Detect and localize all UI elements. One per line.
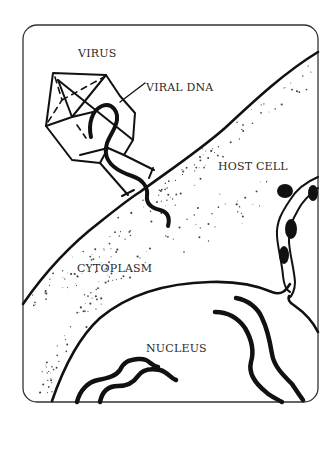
stipple-dot <box>62 277 63 278</box>
stipple-dot <box>116 249 118 251</box>
stipple-dot <box>199 159 201 161</box>
stipple-dot <box>89 256 91 258</box>
stipple-dot <box>146 251 147 252</box>
stipple-dot <box>302 75 304 77</box>
stipple-dot <box>84 310 86 312</box>
stipple-dot <box>109 243 111 245</box>
stipple-dot <box>266 181 267 182</box>
stipple-dot <box>175 194 177 196</box>
stipple-dot <box>175 180 176 181</box>
stipple-dot <box>96 298 98 300</box>
stipple-dot <box>310 71 311 72</box>
stipple-dot <box>182 170 184 172</box>
stipple-dot <box>172 198 173 199</box>
stipple-dot <box>92 297 93 298</box>
stipple-dot <box>130 235 131 236</box>
stipple-dot <box>180 192 182 194</box>
stipple-dot <box>74 273 76 275</box>
stipple-dot <box>92 258 94 260</box>
stipple-dot <box>200 227 201 228</box>
stipple-dot <box>175 204 176 205</box>
stipple-dot <box>80 306 82 308</box>
stipple-dot <box>67 272 68 273</box>
stipple-dot <box>241 129 242 130</box>
stipple-dot <box>199 156 201 158</box>
stipple-dot <box>284 87 285 88</box>
stipple-dot <box>46 361 48 363</box>
stipple-dot <box>237 201 238 202</box>
stipple-dot <box>291 89 293 91</box>
stipple-dot <box>34 305 35 306</box>
stipple-dot <box>111 256 112 257</box>
stipple-dot <box>35 304 36 305</box>
stipple-dot <box>197 207 199 209</box>
stipple-dot <box>308 65 309 66</box>
stipple-dot <box>195 224 196 225</box>
stipple-dot <box>260 182 261 183</box>
stipple-dot <box>194 164 195 165</box>
ribosome-blob <box>285 219 297 239</box>
stipple-dot <box>57 345 58 346</box>
stipple-dot <box>165 182 166 183</box>
stipple-dot <box>244 197 246 199</box>
stipple-dot <box>62 287 63 288</box>
stipple-dot <box>218 146 219 147</box>
stipple-dot <box>205 151 206 152</box>
stipple-dot <box>84 294 85 295</box>
stipple-dot <box>117 217 119 219</box>
stipple-dot <box>48 371 49 372</box>
ribosome-blob <box>277 184 293 198</box>
stipple-dot <box>95 308 96 309</box>
stipple-dot <box>218 206 220 208</box>
stipple-dot <box>195 167 197 169</box>
stipple-dot <box>263 103 264 104</box>
stipple-dot <box>56 367 58 369</box>
stipple-dot <box>200 178 202 180</box>
stipple-dot <box>150 220 152 222</box>
stipple-dot <box>296 90 298 92</box>
stipple-dot <box>95 295 97 297</box>
stipple-dot <box>285 87 286 88</box>
stipple-dot <box>118 235 119 236</box>
stipple-dot <box>251 109 252 110</box>
ribosome-blob <box>279 246 289 264</box>
stipple-dot <box>76 285 77 286</box>
stipple-dot <box>198 236 200 238</box>
stipple-dot <box>225 203 226 204</box>
stipple-dot <box>237 211 238 212</box>
virus-infection-diagram: VIRUS VIRAL DNA HOST CELL CYTOPLASM NUCL… <box>0 0 328 455</box>
stipple-dot <box>194 170 195 171</box>
stipple-dot <box>64 335 65 336</box>
stipple-dot <box>239 138 240 139</box>
stipple-dot <box>104 249 105 250</box>
stipple-dot <box>161 201 162 202</box>
stipple-dot <box>242 216 244 218</box>
stipple-dot <box>115 251 117 253</box>
stipple-dot <box>65 351 67 353</box>
stipple-dot <box>260 112 262 114</box>
stipple-dot <box>252 123 254 125</box>
stipple-dot <box>306 89 308 91</box>
stipple-dot <box>222 156 224 158</box>
stipple-dot <box>259 205 260 206</box>
stipple-dot <box>75 283 76 284</box>
stipple-dot <box>116 279 117 280</box>
stipple-dot <box>143 207 144 208</box>
stipple-dot <box>167 194 169 196</box>
stipple-dot <box>66 343 68 345</box>
label-host-cell: HOST CELL <box>218 160 288 173</box>
ribosome-blob <box>308 185 318 201</box>
stipple-dot <box>53 369 55 371</box>
stipple-dot <box>130 212 132 214</box>
stipple-dot <box>239 206 241 208</box>
stipple-dot <box>219 194 220 195</box>
stipple-dot <box>159 189 161 191</box>
stipple-dot <box>165 235 167 237</box>
stipple-dot <box>92 254 93 255</box>
stipple-dot <box>214 152 215 153</box>
label-virus: VIRUS <box>77 47 116 60</box>
stipple-dot <box>269 112 270 113</box>
chromatin-strand <box>77 359 158 402</box>
stipple-dot <box>150 211 152 213</box>
stipple-dot <box>79 312 80 313</box>
